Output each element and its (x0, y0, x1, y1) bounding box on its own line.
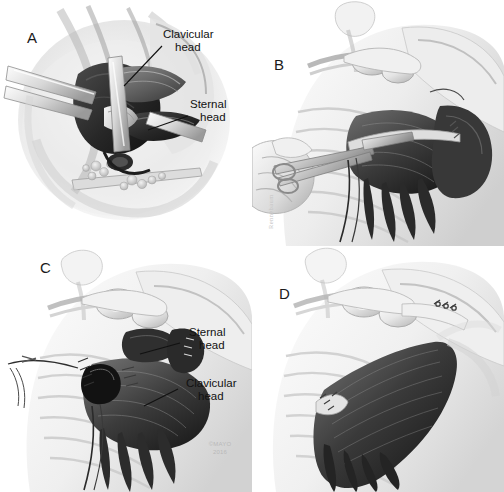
annotation-line-2: head (198, 390, 237, 403)
annotation-line-2: head (199, 339, 225, 352)
copyright-line-1: ©MAYO (198, 440, 242, 448)
medical-illustration-figure: A Clavicular head Sternal head (0, 0, 504, 492)
annotation-line-1: Sternal (189, 326, 225, 339)
annotation-clavicular-head-a: Clavicular head (163, 28, 214, 54)
panel-letter-a: A (27, 29, 38, 46)
panel-d-artwork (252, 246, 504, 492)
annotation-line-1: Clavicular (163, 28, 214, 41)
copyright-notice: ©MAYO 2016 (198, 440, 242, 456)
annotation-sternal-head-a: Sternal head (190, 98, 226, 124)
annotation-line-1: Clavicular (186, 377, 237, 390)
panel-b: B Rennebaum (252, 0, 504, 246)
panel-b-artwork (252, 0, 504, 246)
panel-letter-d: D (279, 285, 290, 302)
annotation-clavicular-head-c: Clavicular head (186, 377, 237, 403)
panel-d: D (252, 246, 504, 492)
annotation-sternal-head-c: Sternal head (189, 326, 225, 352)
annotation-line-2: head (175, 41, 214, 54)
annotation-line-1: Sternal (190, 98, 226, 111)
artist-signature: Rennebaum (267, 194, 274, 229)
panel-letter-c: C (40, 259, 51, 276)
panel-letter-b: B (274, 56, 285, 73)
copyright-line-2: 2016 (198, 448, 242, 456)
annotation-line-2: head (200, 111, 226, 124)
panel-c: C Sternal head Clavicular head ©MAYO 201… (0, 246, 252, 492)
panel-a: A Clavicular head Sternal head (0, 0, 252, 246)
